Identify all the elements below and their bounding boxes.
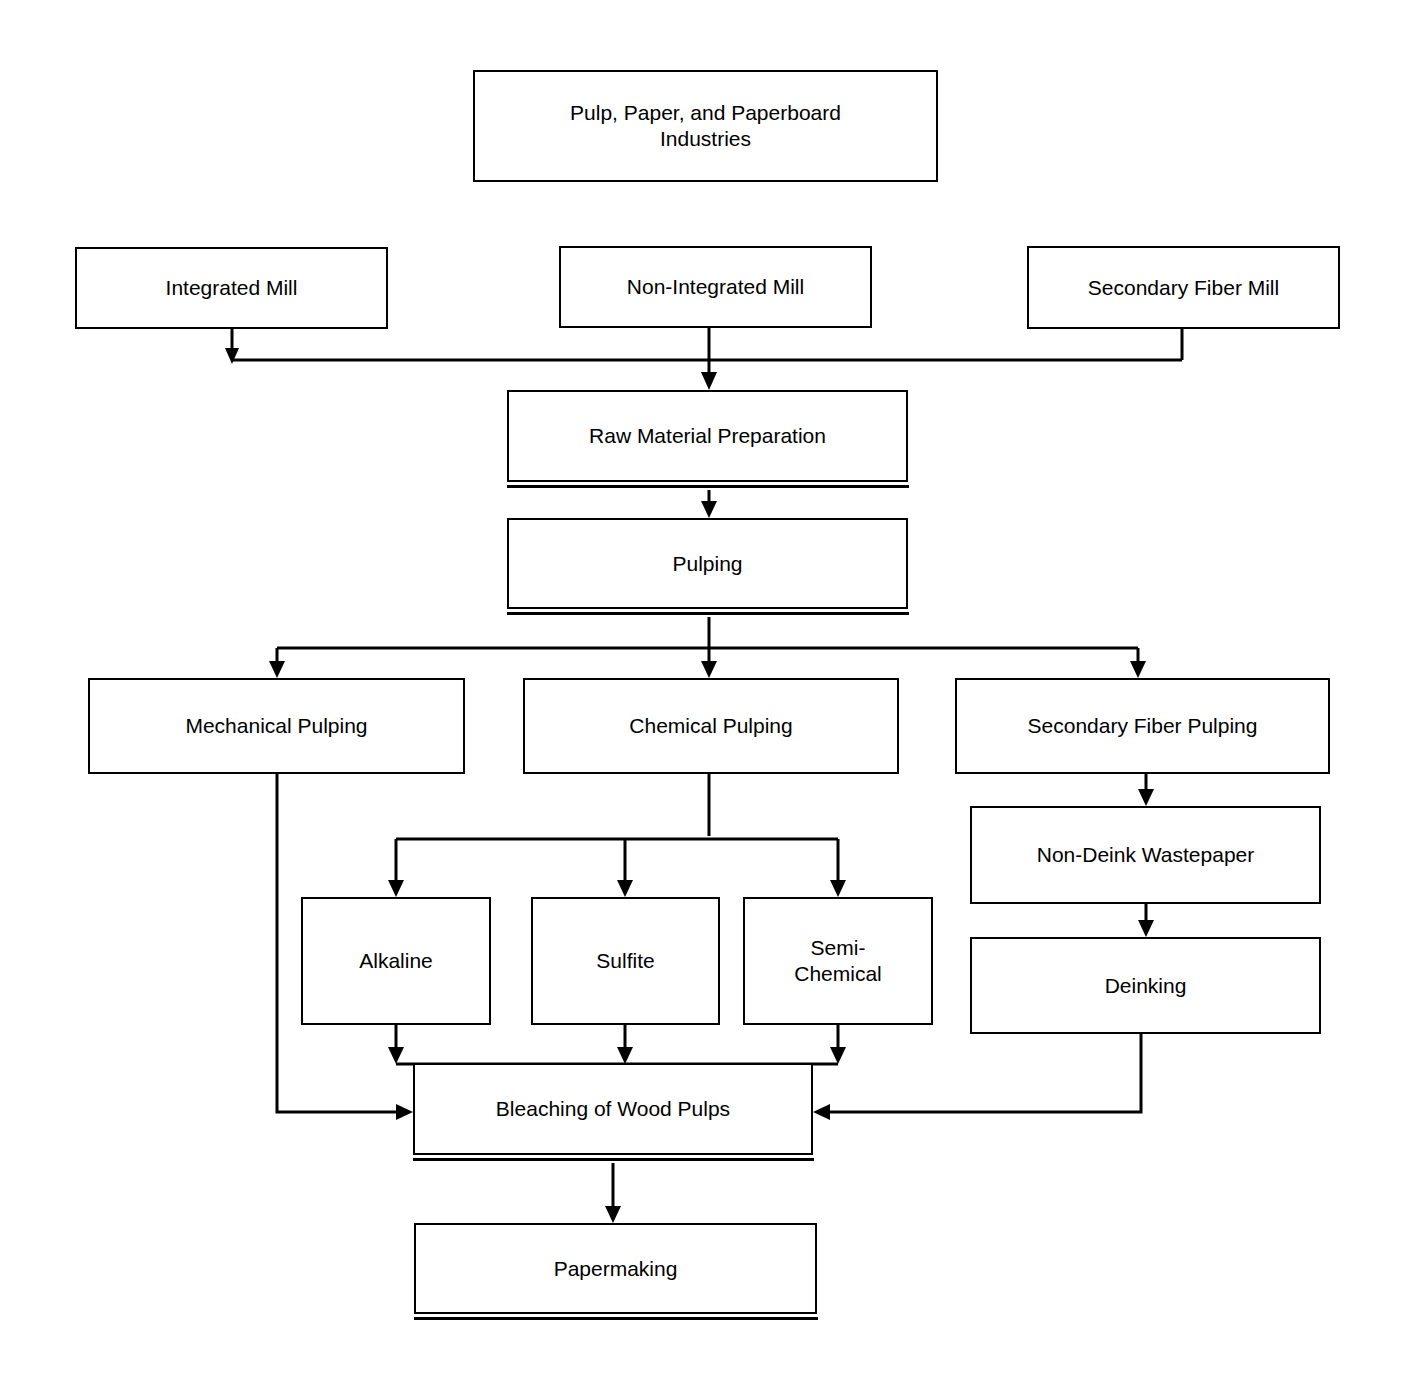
arrowhead-alkaline-merge: [388, 1047, 404, 1064]
node-sulfite[interactable]: Sulfite: [531, 897, 720, 1025]
node-pulping[interactable]: Pulping: [507, 518, 908, 609]
arrowhead-non-deink-wastepaper: [1138, 789, 1154, 806]
node-root-label: Pulp, Paper, and Paperboard Industries: [570, 100, 841, 151]
node-secondary-fiber-mill[interactable]: Secondary Fiber Mill: [1027, 246, 1340, 329]
arrowhead-sulfite: [617, 880, 633, 897]
node-secondary-fiber-mill-label: Secondary Fiber Mill: [1088, 275, 1279, 301]
arrowhead-pulping: [701, 501, 717, 518]
node-bleaching-label: Bleaching of Wood Pulps: [496, 1096, 730, 1122]
node-non-integrated-mill[interactable]: Non-Integrated Mill: [559, 246, 872, 328]
node-raw-material-preparation-label: Raw Material Preparation: [589, 423, 826, 449]
arrowhead-deinking: [1138, 920, 1154, 937]
node-deinking-label: Deinking: [1105, 973, 1187, 999]
node-mechanical-pulping-label: Mechanical Pulping: [185, 713, 367, 739]
node-integrated-mill-label: Integrated Mill: [166, 275, 298, 301]
node-sulfite-label: Sulfite: [596, 948, 654, 974]
arrowhead-papermaking: [605, 1206, 621, 1223]
arrowhead-semi-chemical-merge: [830, 1047, 846, 1064]
arrowhead-secondary-fiber-pulping: [1130, 661, 1146, 678]
node-pulping-label: Pulping: [672, 551, 742, 577]
arrowhead-raw-material-preparation: [701, 372, 717, 390]
node-semi-chemical-label: Semi- Chemical: [794, 935, 882, 986]
node-papermaking[interactable]: Papermaking: [414, 1223, 817, 1314]
node-mechanical-pulping[interactable]: Mechanical Pulping: [88, 678, 465, 774]
node-non-integrated-mill-label: Non-Integrated Mill: [627, 274, 804, 300]
arrowhead-chemical-pulping: [701, 661, 717, 678]
arrowhead-integrated-mill: [225, 348, 239, 364]
arrowhead-alkaline: [388, 880, 404, 897]
node-root[interactable]: Pulp, Paper, and Paperboard Industries: [473, 70, 938, 182]
arrowhead-bleaching-left: [396, 1104, 413, 1120]
arrowhead-mechanical-pulping: [269, 661, 285, 678]
node-chemical-pulping[interactable]: Chemical Pulping: [523, 678, 899, 774]
node-deinking[interactable]: Deinking: [970, 937, 1321, 1034]
flowchart-canvas: Pulp, Paper, and Paperboard Industries I…: [0, 0, 1401, 1394]
node-alkaline-label: Alkaline: [359, 948, 433, 974]
node-secondary-fiber-pulping[interactable]: Secondary Fiber Pulping: [955, 678, 1330, 774]
arrowhead-sulfite-merge: [617, 1047, 633, 1064]
node-bleaching[interactable]: Bleaching of Wood Pulps: [413, 1063, 813, 1155]
node-alkaline[interactable]: Alkaline: [301, 897, 491, 1025]
node-secondary-fiber-pulping-label: Secondary Fiber Pulping: [1028, 713, 1258, 739]
edge-deinking-to-bleaching: [826, 1034, 1141, 1112]
node-chemical-pulping-label: Chemical Pulping: [629, 713, 792, 739]
node-raw-material-preparation[interactable]: Raw Material Preparation: [507, 390, 908, 482]
node-papermaking-label: Papermaking: [554, 1256, 678, 1282]
arrowhead-bleaching-right: [813, 1104, 830, 1120]
node-non-deink-wastepaper[interactable]: Non-Deink Wastepaper: [970, 806, 1321, 904]
arrowhead-semi-chemical: [830, 880, 846, 897]
node-semi-chemical[interactable]: Semi- Chemical: [743, 897, 933, 1025]
node-integrated-mill[interactable]: Integrated Mill: [75, 247, 388, 329]
node-non-deink-wastepaper-label: Non-Deink Wastepaper: [1037, 842, 1255, 868]
